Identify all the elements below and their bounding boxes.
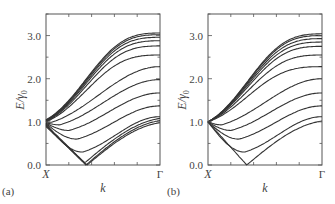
panel-b: 3.0 2.0 1.0 0.0 X Γ k (b) E/γ0 bbox=[167, 14, 325, 198]
band-curves-b bbox=[208, 34, 322, 165]
panel-a: 3.0 2.0 1.0 0.0 X Γ k (a) E/γ0 bbox=[2, 14, 163, 198]
y-axis-label: E/γ0 bbox=[175, 90, 191, 110]
band-line bbox=[46, 46, 160, 122]
y-tick-2: 2.0 bbox=[189, 73, 203, 85]
band-curves-a bbox=[46, 33, 160, 165]
x-axis-label: k bbox=[100, 181, 106, 195]
x-end-label: Γ bbox=[319, 168, 325, 180]
band-structure-figure: 3.0 2.0 1.0 0.0 X Γ k (a) E/γ0 3.0 2.0 1… bbox=[0, 0, 335, 204]
x-axis-label: k bbox=[262, 181, 268, 195]
y-tick-3: 3.0 bbox=[189, 30, 203, 42]
x-start-label: X bbox=[203, 167, 212, 181]
y-tick-2: 2.0 bbox=[27, 73, 41, 85]
band-line bbox=[208, 79, 322, 125]
x-start-label: X bbox=[41, 167, 50, 181]
panel-label-b: (b) bbox=[167, 185, 180, 198]
y-tick-0: 0.0 bbox=[27, 159, 41, 171]
panel-label-a: (a) bbox=[2, 185, 15, 198]
band-line bbox=[208, 117, 322, 152]
x-end-label: Γ bbox=[157, 168, 163, 180]
y-tick-1: 1.0 bbox=[189, 116, 203, 128]
y-tick-1: 1.0 bbox=[27, 116, 41, 128]
y-tick-3: 3.0 bbox=[27, 30, 41, 42]
band-line bbox=[46, 123, 160, 165]
band-line bbox=[46, 117, 160, 152]
y-axis-label: E/γ0 bbox=[13, 90, 29, 110]
y-tick-0: 0.0 bbox=[189, 159, 203, 171]
band-line bbox=[208, 46, 322, 122]
